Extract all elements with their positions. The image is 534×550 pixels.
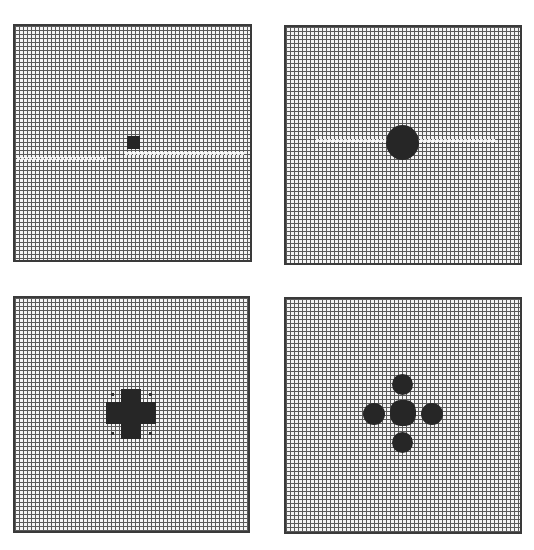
corner-dot [111,432,114,435]
disc-top [392,374,413,395]
disc-pattern [386,125,419,160]
disc-left [363,403,385,425]
grid-panel-3 [13,296,250,533]
scan-artifact [17,157,107,160]
disc-bottom [392,432,413,453]
cross-pattern-horizontal [106,402,156,424]
square-pattern [127,136,140,149]
grid-panel-4 [284,297,522,534]
disc-right [421,403,443,425]
corner-dot [111,393,114,396]
corner-dot [149,393,152,396]
scan-artifact [125,152,245,155]
corner-dot [149,432,152,435]
grid-panel-1 [13,24,252,262]
disc-center [390,400,416,426]
grid-panel-2 [284,25,522,265]
